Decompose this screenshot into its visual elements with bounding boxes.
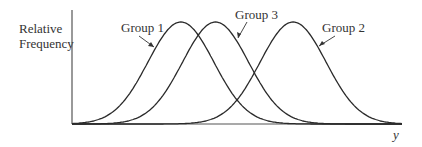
- y-axis-label: Relative Frequency: [19, 21, 74, 51]
- x-axis-label: y: [393, 127, 399, 143]
- curve-group-1: [72, 22, 402, 124]
- arrowhead-group-2: [319, 41, 325, 46]
- y-axis-label-line2: Frequency: [19, 36, 74, 51]
- label-group-2: Group 2: [322, 20, 365, 36]
- label-group-3: Group 3: [235, 7, 278, 23]
- curve-group-3: [72, 22, 402, 124]
- curve-group-2: [72, 22, 402, 124]
- y-axis-label-line1: Relative: [19, 21, 74, 36]
- label-group-1: Group 1: [121, 20, 164, 36]
